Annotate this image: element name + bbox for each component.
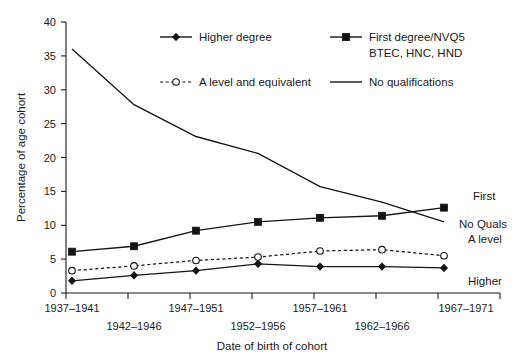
x-tick-label: 1967–1971 [438,302,493,314]
square-marker-icon [342,33,349,40]
series-line [72,49,444,222]
diamond-marker-icon [254,260,261,268]
circle-marker-icon [441,252,448,259]
y-axis-title: Percentage of age cohort [15,92,27,222]
circle-marker-icon [173,79,180,86]
x-tick-label: 1947–1951 [168,302,223,314]
chart-legend: Higher degree First degree/NVQ5 BTEC, HN… [160,31,465,88]
legend-label: A level and equivalent [199,76,312,88]
diamond-marker-icon [68,277,75,285]
y-axis-ticks [61,22,66,293]
legend-label: No qualifications [369,76,454,88]
circle-marker-icon [193,257,200,264]
legend-item-higher-degree[interactable]: Higher degree [160,31,272,43]
x-tick-label: 1942–1946 [106,320,161,332]
line-chart: Percentage of age cohort 40 35 30 25 20 … [0,0,519,358]
y-tick-label: 25 [44,118,56,130]
y-tick-label: 5 [50,253,56,265]
end-label-higher: Higher [468,275,502,287]
series-higher-degree [68,260,447,285]
y-axis-tick-labels: 40 35 30 25 20 15 10 5 0 [44,16,56,299]
end-labels: First No Quals A level Higher [459,190,507,287]
y-tick-label: 35 [44,50,56,62]
diamond-marker-icon [378,263,385,271]
diamond-marker-icon [440,264,447,272]
y-tick-label: 40 [44,16,56,28]
y-tick-label: 15 [44,185,56,197]
diamond-marker-icon [172,33,179,41]
end-label-no-quals: No Quals [459,218,507,230]
x-tick-label: 1952–1956 [230,320,285,332]
circle-marker-icon [317,248,324,255]
square-marker-icon [193,227,200,234]
square-marker-icon [441,204,448,211]
legend-item-first-degree[interactable]: First degree/NVQ5 BTEC, HNC, HND [330,31,465,59]
x-tick-label: 1962–1966 [354,320,409,332]
x-axis-ticks [66,293,500,299]
y-tick-label: 0 [50,287,56,299]
y-tick-label: 30 [44,84,56,96]
legend-label-line2: BTEC, HNC, HND [369,47,462,59]
x-tick-label: 1937–1941 [44,302,99,314]
square-marker-icon [131,243,138,250]
y-tick-label: 20 [44,152,56,164]
circle-marker-icon [69,267,76,274]
end-label-a-level: A level [468,233,502,245]
y-tick-label: 10 [44,219,56,231]
square-marker-icon [255,218,262,225]
series-first-degree-nvq5-btec-hnc-hnd [69,204,448,255]
end-label-first: First [473,190,496,202]
square-marker-icon [317,214,324,221]
series-no-qualifications [72,49,444,222]
circle-marker-icon [131,263,138,270]
series-line [72,208,444,252]
series-a-level-and-equivalent [69,246,448,274]
circle-marker-icon [255,254,262,261]
x-axis-tick-labels: 1937–1941 1942–1946 1947–1951 1952–1956 … [44,302,493,332]
diamond-marker-icon [316,263,323,271]
diamond-marker-icon [192,267,199,275]
square-marker-icon [379,212,386,219]
diamond-marker-icon [130,272,137,280]
legend-label: First degree/NVQ5 [369,31,465,43]
x-tick-label: 1957–1961 [292,302,347,314]
legend-item-no-qualifications[interactable]: No qualifications [330,76,454,88]
circle-marker-icon [379,246,386,253]
legend-label: Higher degree [199,31,272,43]
chart-container: Percentage of age cohort 40 35 30 25 20 … [0,0,519,358]
x-axis-title: Date of birth of cohort [217,340,328,352]
legend-item-a-level[interactable]: A level and equivalent [160,76,312,88]
square-marker-icon [69,248,76,255]
